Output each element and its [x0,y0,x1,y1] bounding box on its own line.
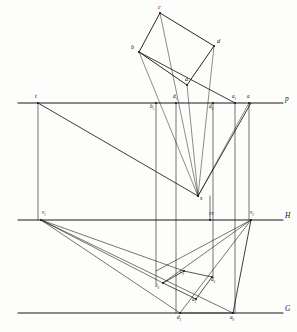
point-a1 [234,102,236,104]
point-label-a0-subscript: 0 [233,318,235,322]
point-label-s: s [200,195,202,201]
point-cv [209,219,211,221]
point-label-v2: v2 [250,210,254,217]
point-label-d1-subscript: 1 [176,97,178,101]
object-plan-rectangle-edge-1 [160,13,214,46]
point-label-d0: d0 [209,104,213,111]
point-v2 [250,219,252,221]
object-plan-rectangle-edge-0 [139,13,160,52]
point-label-a2: a2 [192,297,196,304]
point-label-v2-subscript: 2 [252,213,254,217]
ray-a-to-s [187,85,198,196]
point-t [37,102,39,104]
edge-a0-up-v2 [233,220,251,313]
perspective-v1-to-a2 [41,220,233,313]
point-c [159,12,161,14]
point-label-a1: a1 [232,94,236,101]
reference-line-label-G: G [285,305,290,312]
point-label-a: a [247,94,250,99]
point-label-d00: d0 [211,277,215,284]
point-a [186,84,188,86]
ray-s-to-a-topline [198,103,249,196]
ray-c-to-s [160,13,198,196]
point-s [197,195,199,197]
drawing-canvas [0,0,297,332]
ray-t-to-s [38,103,198,196]
perspective-v2-to-d1g [180,220,251,313]
point-d [213,45,215,47]
point-b1 [155,102,157,104]
object-plan-rectangle-edge-2 [187,46,214,85]
point-label-t: t [35,93,37,99]
point-label-a0: a0 [230,315,234,322]
edge-d00-a2 [196,277,212,299]
point-label-b0: b0 [155,283,159,290]
point-label-v1: v1 [42,210,46,217]
ray-b-to-s [139,52,198,196]
point-b [138,51,140,53]
perspective-construction-drawing: cbdatb1d1d0a1asv1cvv2b0c0d0a2d1a0pHG [0,0,297,332]
point-label-b1: b1 [150,104,154,111]
point-label-b1-subscript: 1 [153,107,155,111]
point-label-a2-subscript: 2 [195,300,197,304]
point-label-d00-subscript: 0 [214,280,216,284]
point-label-d1g: d1 [177,315,181,322]
point-label-d1g-subscript: 1 [180,318,182,322]
point-label-b: b [131,44,134,50]
point-b0 [162,282,164,284]
point-label-d0-subscript: 0 [212,107,214,111]
point-label-v1-subscript: 1 [44,213,46,217]
point-d1 [175,102,177,104]
point-label-d: d [217,38,220,44]
perspective-v1-to-b0 [41,220,163,283]
perspective-v1-to-c0 [41,220,184,271]
point-label-c: c [158,4,161,10]
point-v1 [40,219,42,221]
reference-line-label-H: H [285,212,290,219]
object-plan-rectangle-edge-3 [139,52,187,85]
reference-line-label-P: p [285,95,289,102]
point-label-cv: cv [209,211,214,216]
point-label-c0-subscript: 0 [182,272,184,276]
point-label-d1: d1 [173,94,177,101]
ray-d-to-s [198,46,214,196]
point-label-a: a [185,76,188,82]
point-a [248,102,250,104]
edge-c0-d00 [184,271,212,277]
point-label-b0-subscript: 0 [158,286,160,290]
perspective-v2-to-c0ext [156,220,251,271]
perspective-v1-to-d1g [41,220,180,313]
ray-s-to-v2-up [198,103,251,196]
point-label-c0: c0 [180,269,184,276]
point-label-a1-subscript: 1 [235,97,237,101]
